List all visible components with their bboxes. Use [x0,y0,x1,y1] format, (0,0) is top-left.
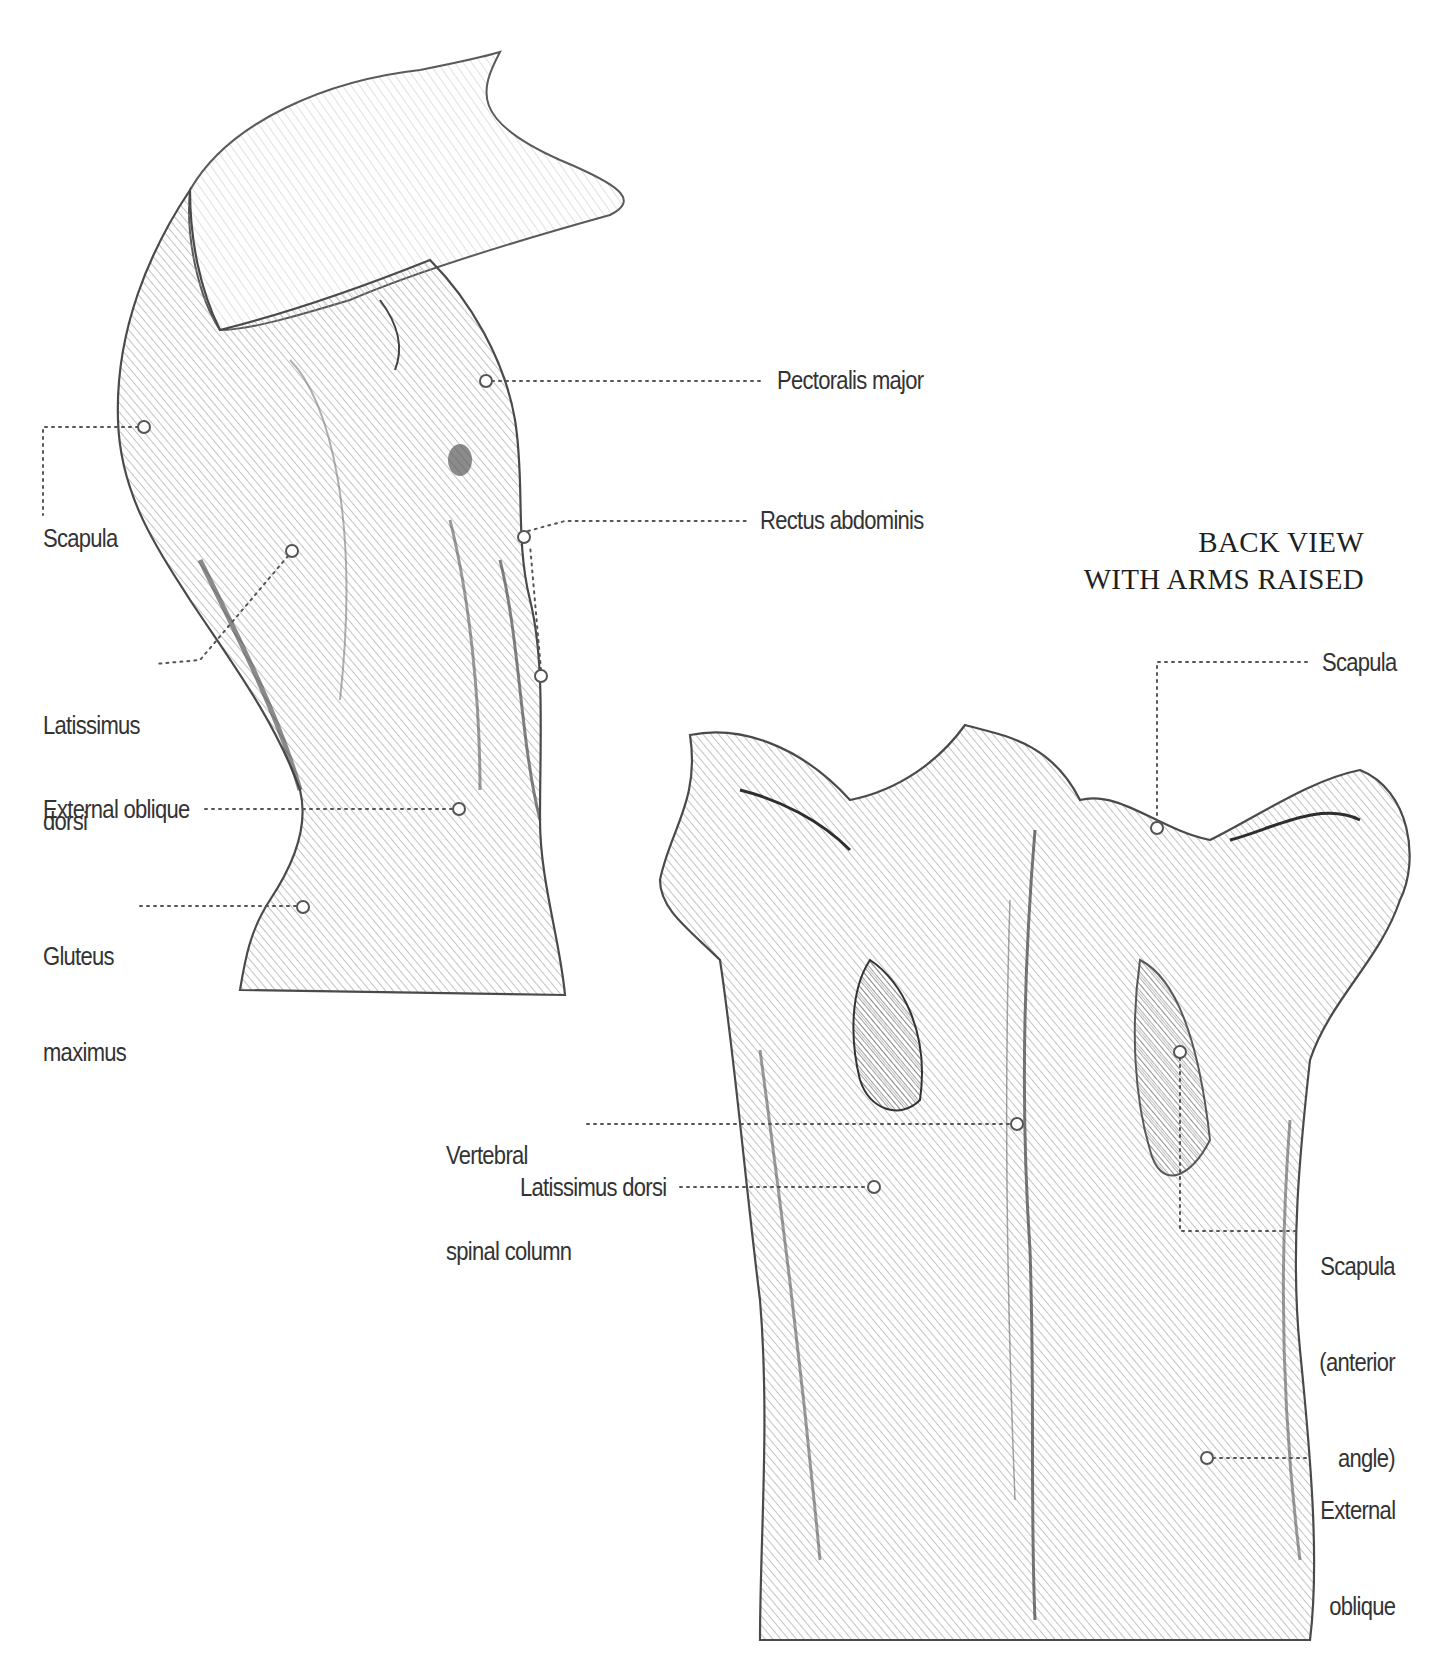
label-external-oblique-side: External oblique [43,793,190,825]
back-view-title-line1: BACK VIEW [1084,524,1364,561]
back-view-title: BACK VIEW WITH ARMS RAISED [1084,524,1364,598]
label-rectus-abdominis: Rectus abdominis [760,504,924,536]
pencil-drawings [0,0,1446,1663]
back-view-title-line2: WITH ARMS RAISED [1084,561,1364,598]
back-view-torso-drawing [660,725,1410,1640]
anatomy-figure: SIDE VIEW WITH ARMS RAISED [0,0,1446,1663]
label-vertebral-spinal-column: Vertebral spinal column [446,1075,571,1331]
label-latissimus-dorsi-side: Latissimus dorsi [43,645,140,901]
label-scapula-side: Scapula [43,522,118,554]
side-view-torso-drawing [118,52,624,995]
label-scapula-back: Scapula [1322,646,1397,678]
label-external-oblique-back: External oblique [1320,1430,1395,1663]
label-pectoralis-major: Pectoralis major [777,364,923,396]
label-latissimus-dorsi-back: Latissimus dorsi [520,1171,666,1203]
label-gluteus-maximus: Gluteus maximus [43,876,126,1132]
